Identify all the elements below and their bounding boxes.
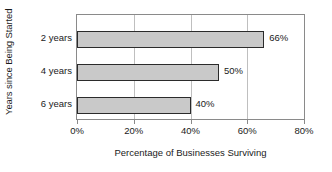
x-axis-tick-label: 40% <box>171 126 211 136</box>
y-axis-tick-label: 6 years <box>18 99 72 109</box>
bar-chart: Years since Being Started 2 years4 years… <box>0 0 332 172</box>
x-axis-tick <box>77 120 78 124</box>
x-axis-tick-label: 60% <box>227 126 267 136</box>
x-axis-tick-label: 0% <box>57 126 97 136</box>
x-axis-tick <box>304 120 305 124</box>
x-axis-tick <box>191 120 192 124</box>
y-axis-title: Years since Being Started <box>0 0 18 124</box>
x-axis-ticks <box>76 120 305 124</box>
x-axis-tick-labels: 0%20%40%60%80% <box>0 126 332 138</box>
x-axis-tick <box>134 120 135 124</box>
x-axis-tick <box>247 120 248 124</box>
bar-value-label: 50% <box>224 66 243 76</box>
x-axis-tick-label: 80% <box>284 126 324 136</box>
y-axis-tick-labels: 2 years4 years6 years <box>18 14 76 120</box>
x-axis-title: Percentage of Businesses Surviving <box>76 148 305 158</box>
bar-value-label: 66% <box>269 33 288 43</box>
y-axis-title-text: Years since Being Started <box>4 9 14 115</box>
data-labels: 66%50%40% <box>76 14 332 120</box>
bar-value-label: 40% <box>196 99 215 109</box>
x-axis-tick-label: 20% <box>114 126 154 136</box>
y-axis-tick-label: 4 years <box>18 66 72 76</box>
y-axis-tick-label: 2 years <box>18 33 72 43</box>
